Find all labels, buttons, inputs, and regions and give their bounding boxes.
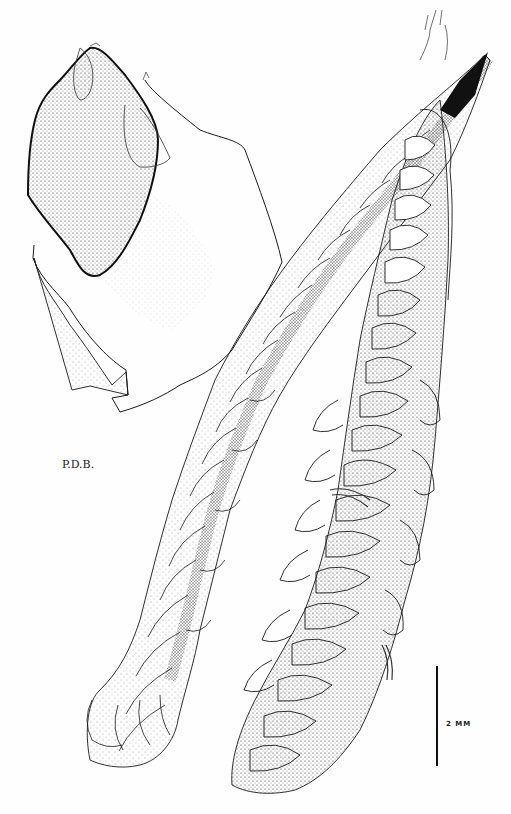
top-hairs: [420, 10, 448, 60]
illustration-drawing: [0, 0, 511, 814]
illustration-plate: P.D.B. 2 MM: [0, 0, 511, 814]
artist-signature: P.D.B.: [62, 458, 94, 471]
scale-bar-label: 2 MM: [446, 720, 471, 728]
